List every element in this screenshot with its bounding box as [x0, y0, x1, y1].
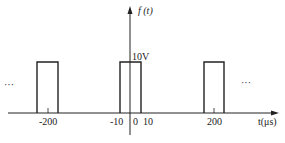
tick-label-minus-10: -10	[110, 117, 123, 127]
pulse-right	[204, 62, 224, 113]
tick-label-0: 0	[133, 117, 138, 127]
amplitude-label: 10V	[132, 52, 149, 62]
f-axis-arrow-icon	[128, 6, 133, 14]
pulse-left	[37, 62, 58, 113]
y-axis-label: f (t)	[138, 6, 153, 16]
x-axis-label: t(μs)	[258, 117, 277, 127]
tick-label-minus-200: -200	[39, 117, 57, 127]
ellipsis-right: ···	[241, 78, 251, 88]
t-axis-arrow-icon	[271, 111, 279, 116]
ellipsis-left: ···	[4, 80, 14, 90]
tick-label-10: 10	[143, 117, 153, 127]
tick-label-200: 200	[207, 117, 222, 127]
